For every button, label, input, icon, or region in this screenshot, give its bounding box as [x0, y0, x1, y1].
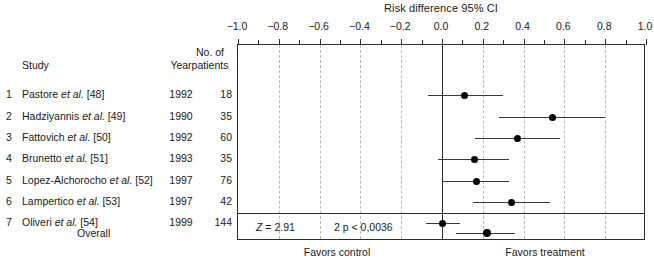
- table-row-index: 1: [6, 88, 12, 100]
- tickmark-major-3: [360, 39, 361, 45]
- tickmark-major-1: [279, 39, 280, 45]
- tickmark-minor-0: [258, 40, 259, 45]
- x-tick-label-6: 0.2: [462, 20, 502, 32]
- tickmark-minor-5: [462, 40, 463, 45]
- tickmark-minor-4: [422, 40, 423, 45]
- gridline-4: [401, 45, 402, 239]
- ci-row-3: [238, 138, 644, 139]
- ci-point-marker: [471, 156, 478, 163]
- ci-point-marker: [473, 178, 480, 185]
- tickmark-minor-6: [503, 40, 504, 45]
- ci-point-marker: [439, 220, 446, 227]
- ci-row-overall: [238, 233, 644, 234]
- tickmark-minor-8: [585, 40, 586, 45]
- overall-separator-line: [238, 213, 644, 214]
- z-value: = 2.91: [265, 221, 295, 233]
- tickmark-minor-1: [299, 40, 300, 45]
- gridline-9: [605, 45, 606, 239]
- tickmark-major-0: [238, 39, 239, 45]
- ci-point-marker: [508, 199, 515, 206]
- chart-title: Risk difference 95% CI: [237, 2, 645, 14]
- ci-row-4: [238, 159, 644, 160]
- table-row-patients: 144: [186, 216, 232, 228]
- x-tick-label-1: −0.8: [258, 20, 298, 32]
- ci-row-6: [238, 202, 644, 203]
- table-row-study: Lampertico et al. [53]: [22, 195, 120, 207]
- tickmark-major-7: [524, 39, 525, 45]
- column-header-study: Study: [22, 59, 49, 71]
- table-row-index: 4: [6, 152, 12, 164]
- tickmark-major-2: [320, 39, 321, 45]
- footer-label-favors-treatment: Favors treatment: [465, 246, 625, 258]
- ci-point-marker: [483, 229, 491, 237]
- gridline-3: [360, 45, 361, 239]
- table-row-index: 7: [6, 216, 12, 228]
- tickmark-major-6: [483, 39, 484, 45]
- overall-row-label: Overall: [77, 227, 110, 239]
- ci-row-5: [238, 181, 644, 182]
- table-row-patients: 42: [186, 195, 232, 207]
- plot-area: Z = 2.91 2 p < 0,0036: [237, 44, 645, 240]
- tickmark-minor-7: [544, 40, 545, 45]
- x-tick-label-0: −1.0: [217, 20, 257, 32]
- tickmark-major-9: [605, 39, 606, 45]
- table-row-patients: 18: [186, 88, 232, 100]
- table-row-index: 6: [6, 195, 12, 207]
- gridline-8: [564, 45, 565, 239]
- footer-label-favors-control: Favors control: [257, 246, 417, 258]
- tickmark-major-8: [564, 39, 565, 45]
- tickmark-minor-2: [340, 40, 341, 45]
- table-row-index: 2: [6, 110, 12, 122]
- gridline-7: [524, 45, 525, 239]
- gridline-1: [279, 45, 280, 239]
- table-row-index: 5: [6, 174, 12, 186]
- tickmark-major-4: [401, 39, 402, 45]
- table-row-study: Brunetto et al. [51]: [22, 152, 108, 164]
- x-tick-label-3: −0.4: [339, 20, 379, 32]
- x-tick-label-8: 0.6: [543, 20, 583, 32]
- column-header-patients-line1: No. of: [186, 46, 234, 58]
- z-symbol: Z: [256, 221, 262, 233]
- gridline-2: [320, 45, 321, 239]
- x-tick-label-4: −0.2: [380, 20, 420, 32]
- tickmark-major-10: [646, 39, 647, 45]
- table-row-index: 3: [6, 131, 12, 143]
- tickmark-minor-3: [381, 40, 382, 45]
- z-statistic: Z = 2.91: [256, 221, 295, 233]
- ci-point-marker: [461, 92, 468, 99]
- ci-point-marker: [514, 135, 521, 142]
- table-row-patients: 76: [186, 174, 232, 186]
- table-row-patients: 35: [186, 110, 232, 122]
- column-header-patients-line2: patients: [186, 59, 234, 71]
- x-tick-label-2: −0.6: [299, 20, 339, 32]
- x-tick-label-10: 1.0: [625, 20, 654, 32]
- table-row-study: Fattovich et al. [50]: [22, 131, 111, 143]
- zero-line: [442, 45, 443, 239]
- ci-row-1: [238, 95, 644, 96]
- x-tick-label-7: 0.4: [503, 20, 543, 32]
- ci-row-2: [238, 117, 644, 118]
- table-row-patients: 60: [186, 131, 232, 143]
- table-row-study: Lopez-Alchorocho et al. [52]: [22, 174, 153, 186]
- x-tick-label-9: 0.8: [584, 20, 624, 32]
- x-tick-label-5: 0.0: [421, 20, 461, 32]
- table-row-study: Hadziyannis et al. [49]: [22, 110, 125, 122]
- table-row-study: Pastore et al. [48]: [22, 88, 104, 100]
- ci-row-7: [238, 223, 644, 224]
- forest-plot-figure: Risk difference 95% CI −1.0−0.8−0.6−0.4−…: [0, 0, 654, 270]
- tickmark-minor-9: [626, 40, 627, 45]
- table-row-patients: 35: [186, 152, 232, 164]
- p-statistic: 2 p < 0,0036: [334, 221, 393, 233]
- ci-point-marker: [549, 114, 556, 121]
- gridline-6: [483, 45, 484, 239]
